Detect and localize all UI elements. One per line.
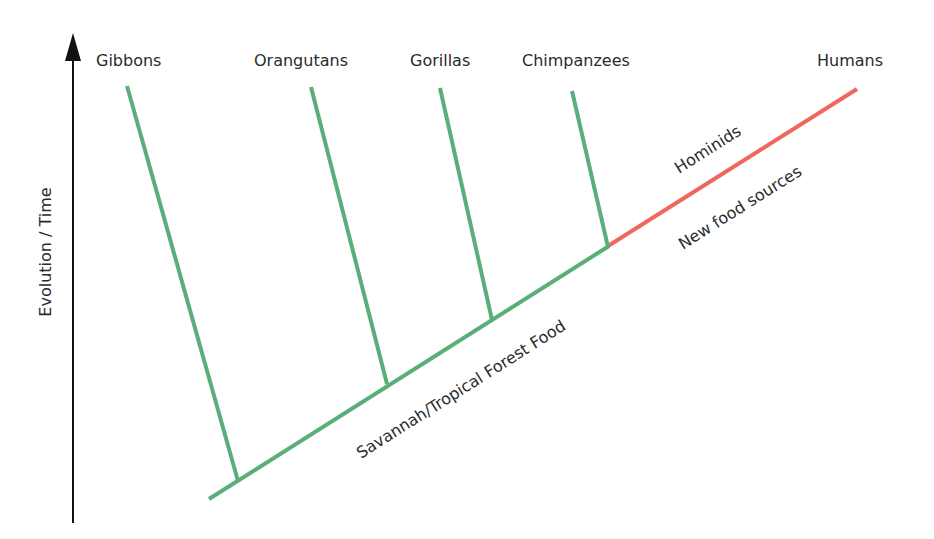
taxon-label-orangutans: Orangutans: [254, 51, 348, 70]
taxon-label-gibbons: Gibbons: [96, 51, 161, 70]
phylogenetic-tree-diagram: Evolution / Time Gibbons Orangutans Gori…: [0, 0, 934, 539]
tree-branches: [127, 86, 857, 499]
taxon-label-gorillas: Gorillas: [410, 51, 470, 70]
taxon-label-chimpanzees: Chimpanzees: [522, 51, 630, 70]
taxa-labels: Gibbons Orangutans Gorillas Chimpanzees …: [96, 51, 883, 70]
taxon-label-humans: Humans: [817, 51, 883, 70]
arrow-up-icon: [65, 33, 81, 61]
branch-orangutans: [311, 87, 387, 384]
new-food-sources-label: New food sources: [675, 161, 805, 253]
branch-annotations: Savannah/Tropical Forest Food Hominids N…: [353, 121, 805, 462]
trunk-branch-ancestral: [209, 246, 609, 499]
branch-chimpanzees: [572, 91, 608, 247]
axis-label: Evolution / Time: [36, 187, 55, 316]
time-axis: Evolution / Time: [36, 33, 81, 523]
branch-gibbons: [127, 86, 238, 481]
branch-gorillas: [440, 88, 492, 320]
